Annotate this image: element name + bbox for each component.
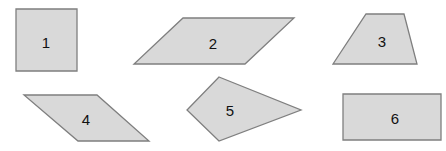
shape-2-label: 2	[209, 35, 217, 52]
shape-3-label: 3	[378, 33, 386, 50]
shape-4-parallelogram: 4	[24, 95, 149, 141]
shape-2-parallelogram: 2	[134, 18, 294, 64]
trapezoid-shape	[333, 14, 417, 64]
kite-shape	[187, 77, 301, 141]
shapes-diagram: 1 2 3 4 5 6	[0, 0, 446, 151]
shape-4-label: 4	[82, 111, 90, 128]
shape-3-trapezoid: 3	[333, 14, 417, 64]
shape-6-label: 6	[391, 110, 399, 127]
shape-5-label: 5	[226, 102, 234, 119]
shape-1-square: 1	[16, 9, 77, 71]
shape-6-rectangle: 6	[343, 94, 441, 140]
shape-5-kite: 5	[187, 77, 301, 141]
shape-1-label: 1	[42, 34, 50, 51]
